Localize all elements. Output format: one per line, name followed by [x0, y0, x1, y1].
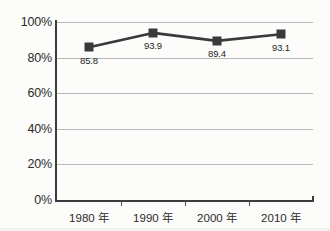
x-tick-label: 1990 年 [121, 203, 185, 229]
data-point-marker [85, 43, 94, 52]
y-tick-label: 20% [4, 157, 52, 171]
data-point-label: 93.9 [144, 40, 162, 51]
data-point-marker [149, 28, 158, 37]
line-chart: 100% 80% 60% 40% 20% 0% 85.8 93.9 89.4 9… [0, 0, 330, 231]
x-axis-labels: 1980 年 1990 年 2000 年 2010 年 [57, 203, 313, 229]
scan-edge [0, 228, 330, 231]
data-point-label: 89.4 [208, 48, 226, 59]
y-tick-label: 40% [4, 122, 52, 136]
x-tick-label: 1980 年 [57, 203, 121, 229]
x-tick-label: 2010 年 [249, 203, 313, 229]
x-tick-label: 2000 年 [185, 203, 249, 229]
data-point-label: 93.1 [272, 42, 290, 53]
data-point-marker [277, 30, 286, 39]
y-tick-label: 0% [4, 193, 52, 207]
y-axis-labels: 100% 80% 60% 40% 20% 0% [0, 0, 52, 231]
data-point-marker [213, 36, 222, 45]
y-tick-label: 60% [4, 86, 52, 100]
y-tick-label: 80% [4, 51, 52, 65]
data-point-label: 85.8 [80, 55, 98, 66]
y-tick-label: 100% [4, 15, 52, 29]
plot-area: 85.8 93.9 89.4 93.1 [57, 22, 313, 200]
